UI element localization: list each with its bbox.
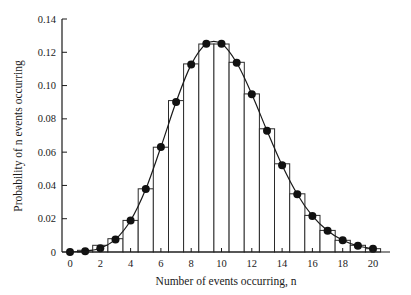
poisson-data-point	[308, 212, 316, 220]
histogram-bar	[305, 215, 320, 252]
poisson-data-point	[112, 235, 120, 243]
x-tick-label: 6	[158, 258, 163, 269]
x-tick-label: 18	[337, 258, 348, 269]
y-tick-label: 0.10	[38, 80, 56, 91]
histogram-bar	[259, 129, 274, 252]
y-tick-label: 0.06	[38, 147, 56, 158]
x-axis-label: Number of events occurring, n	[156, 275, 297, 288]
histogram-bar	[169, 101, 184, 252]
x-tick-label: 16	[307, 258, 318, 269]
x-tick-label: 12	[247, 258, 258, 269]
x-tick-label: 2	[98, 258, 103, 269]
histogram-bar	[123, 220, 138, 252]
poisson-data-point	[278, 161, 286, 169]
poisson-data-point	[324, 227, 332, 235]
y-tick-label: 0.14	[38, 14, 57, 25]
x-tick-label: 4	[128, 258, 134, 269]
histogram-bar	[138, 189, 153, 252]
poisson-data-point	[157, 143, 165, 151]
y-tick-label: 0.04	[38, 180, 57, 191]
y-tick-label: 0.02	[38, 213, 56, 224]
y-tick-label: 0	[51, 247, 56, 258]
x-tick-label: 14	[277, 258, 288, 269]
x-tick-label: 8	[189, 258, 194, 269]
poisson-data-point	[127, 217, 135, 225]
histogram-bar	[199, 44, 214, 252]
poisson-data-point	[354, 242, 362, 250]
y-tick-label: 0.12	[38, 47, 56, 58]
x-tick-label: 10	[216, 258, 227, 269]
poisson-data-point	[187, 61, 195, 69]
poisson-data-point	[81, 247, 89, 255]
poisson-data-point	[263, 127, 271, 135]
poisson-data-point	[202, 40, 210, 48]
poisson-data-point	[233, 59, 241, 67]
poisson-data-point	[248, 90, 256, 98]
histogram-bar	[214, 44, 229, 252]
x-tick-label: 20	[368, 258, 379, 269]
poisson-data-point	[293, 190, 301, 198]
x-tick-label: 0	[67, 258, 72, 269]
y-tick-label: 0.08	[38, 113, 56, 124]
histogram-bar	[244, 94, 259, 252]
poisson-data-point	[172, 98, 180, 106]
histogram-bars	[78, 44, 381, 252]
poisson-chart: 00.020.040.060.080.100.120.14 0246810121…	[0, 0, 411, 295]
poisson-data-point	[218, 40, 226, 48]
poisson-data-point	[142, 185, 150, 193]
poisson-data-point	[339, 236, 347, 244]
histogram-bar	[229, 62, 244, 252]
histogram-bar	[184, 64, 199, 252]
y-axis-label: Probability of n events occurring	[12, 60, 25, 212]
